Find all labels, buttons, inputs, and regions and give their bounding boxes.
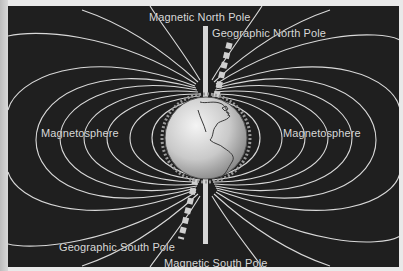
label-geographic-south-pole: Geographic South Pole bbox=[59, 241, 175, 253]
page-margin bbox=[0, 0, 8, 271]
label-magnetic-south-pole: Magnetic South Pole bbox=[164, 257, 267, 267]
magnetosphere-diagram: Magnetic North Pole Geographic North Pol… bbox=[8, 6, 399, 267]
label-magnetosphere-right: Magnetosphere bbox=[283, 127, 361, 139]
label-magnetic-north-pole: Magnetic North Pole bbox=[149, 11, 251, 23]
label-magnetosphere-left: Magnetosphere bbox=[41, 127, 119, 139]
earth-globe bbox=[165, 97, 247, 179]
label-geographic-north-pole: Geographic North Pole bbox=[212, 27, 326, 39]
